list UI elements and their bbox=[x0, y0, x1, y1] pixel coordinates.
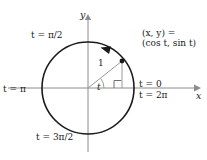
label-t-pi: t = π bbox=[3, 84, 26, 94]
point-annotation-line-1: (x, y) = bbox=[142, 28, 175, 38]
label-t-zero: t = 0 bbox=[139, 79, 162, 89]
label-t-three-pi-over-2: t = 3π/2 bbox=[36, 132, 73, 142]
y-axis-label: y bbox=[80, 9, 85, 20]
direction-arrowhead-icon bbox=[101, 47, 112, 55]
figure-canvas bbox=[0, 0, 207, 160]
point-marker bbox=[120, 59, 125, 64]
label-t-pi-over-2: t = π/2 bbox=[31, 30, 63, 40]
radius-line bbox=[88, 61, 122, 88]
point-annotation-line-2: (cos t, sin t) bbox=[142, 38, 196, 48]
unit-circle-figure: y x t = π/2 t = π t = 0 t = 2π t = 3π/2 … bbox=[0, 0, 207, 160]
right-angle-marker-icon bbox=[114, 81, 121, 89]
radius-length-label: 1 bbox=[98, 58, 104, 68]
point-coordinates-annotation: (x, y) = (cos t, sin t) bbox=[142, 28, 196, 49]
x-axis-label: x bbox=[196, 90, 201, 101]
y-axis-arrowhead bbox=[85, 14, 91, 20]
label-t-two-pi: t = 2π bbox=[139, 90, 168, 100]
angle-label: t bbox=[97, 82, 101, 92]
angle-arc bbox=[101, 79, 104, 88]
